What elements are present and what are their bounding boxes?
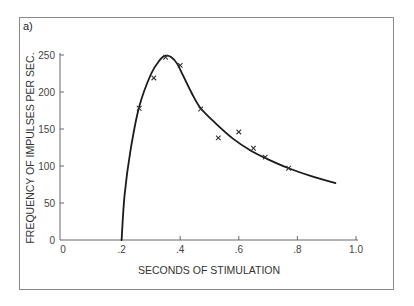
- y-tick-label: 50: [44, 198, 56, 209]
- y-tick-label: 150: [38, 124, 55, 135]
- data-point-x-marker: [251, 146, 256, 151]
- x-tick-label: .2: [117, 244, 126, 255]
- y-tick-label: 0: [49, 235, 55, 246]
- x-tick-label: .4: [176, 244, 185, 255]
- x-tick-label: 0: [60, 244, 66, 255]
- x-tick-label: .6: [235, 244, 244, 255]
- fitted-curve: [122, 56, 336, 240]
- data-point-x-marker: [152, 76, 157, 81]
- y-tick-label: 200: [38, 87, 55, 98]
- axes: 0501001502002500.2.4.6.81.0: [38, 50, 363, 256]
- y-tick-label: 250: [38, 50, 55, 61]
- x-tick-label: 1.0: [349, 244, 363, 255]
- data-point-x-marker: [216, 136, 221, 141]
- data-markers: [137, 55, 291, 171]
- plot-area: 0501001502002500.2.4.6.81.0: [0, 0, 414, 306]
- data-point-x-marker: [237, 130, 242, 135]
- y-tick-label: 100: [38, 161, 55, 172]
- x-tick-label: .8: [293, 244, 302, 255]
